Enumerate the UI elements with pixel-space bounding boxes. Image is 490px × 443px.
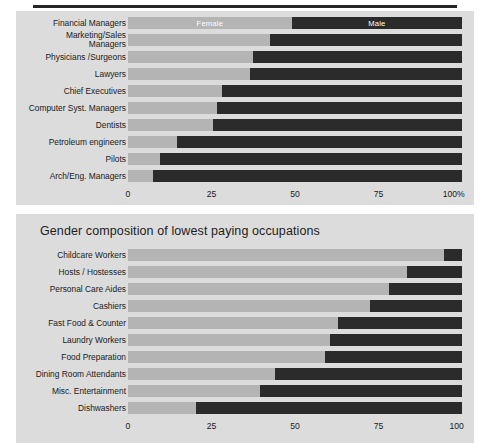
- bar-segment-female: [128, 51, 462, 63]
- x-axis-tick-label: 75: [374, 421, 384, 431]
- x-axis-tick-label: 25: [207, 189, 217, 199]
- bar-segment-male: [325, 351, 462, 363]
- bar-segment-female: [128, 317, 462, 329]
- bar-row: Dining Room Attendants: [16, 366, 474, 382]
- bar-row-label: Dining Room Attendants: [16, 366, 126, 382]
- bar-segment-male: [217, 102, 462, 114]
- bar-segment-male: [253, 51, 462, 63]
- bar-row-label: Personal Care Aides: [16, 281, 126, 297]
- bar-segment-male: [275, 368, 462, 380]
- bar-segment-female: [128, 85, 462, 97]
- bar-row-label: Physicians /Surgeons: [16, 49, 126, 65]
- bar-row: Computer Syst. Managers: [16, 100, 474, 116]
- bar-row-label: Marketing/SalesManagers: [16, 31, 126, 48]
- bar-row: Pilots: [16, 151, 474, 167]
- bar-segment-male: [250, 68, 462, 80]
- bar-row: Marketing/SalesManagers: [16, 32, 474, 48]
- bar-row: Laundry Workers: [16, 332, 474, 348]
- bar-row-label: Dentists: [16, 117, 126, 133]
- bar-segment-male: [177, 136, 462, 148]
- bar-segment-female: [128, 385, 462, 397]
- bar-row: Personal Care Aides: [16, 281, 474, 297]
- bar-row: Lawyers: [16, 66, 474, 82]
- x-axis: 0255075100%: [16, 187, 474, 205]
- bar-segment-female: [128, 402, 462, 414]
- bar-segment-male: [153, 170, 462, 182]
- x-axis-tick-label: 50: [290, 421, 300, 431]
- bar-row: Misc. Entertainment: [16, 383, 474, 399]
- bar-segment-male: [222, 85, 462, 97]
- stacked-bar-chart-bottom: Childcare WorkersHosts / HostessesPerson…: [16, 247, 474, 437]
- bar-segment-female: [128, 34, 462, 46]
- bar-segment-male: [330, 334, 462, 346]
- bar-segment-female: [128, 266, 462, 278]
- x-axis-tick-label: 100%: [443, 189, 465, 199]
- bar-row: Food Preparation: [16, 349, 474, 365]
- bar-segment-female: [128, 283, 462, 295]
- bar-row-label: Childcare Workers: [16, 247, 126, 263]
- bar-row-label: Arch/Eng. Managers: [16, 168, 126, 184]
- bar-segment-male: [407, 266, 462, 278]
- bar-row-label: Laundry Workers: [16, 332, 126, 348]
- bar-row-label: Chief Executives: [16, 83, 126, 99]
- bar-row: Financial ManagersFemaleMale: [16, 15, 474, 31]
- bar-row: Physicians /Surgeons: [16, 49, 474, 65]
- bar-row: Cashiers: [16, 298, 474, 314]
- bar-row-label: Lawyers: [16, 66, 126, 82]
- bar-segment-male: [270, 34, 462, 46]
- chart-panel-highest-paying: Financial ManagersFemaleMaleMarketing/Sa…: [16, 11, 474, 205]
- bar-segment-male: [338, 317, 462, 329]
- bar-row-label: Financial Managers: [16, 15, 126, 31]
- bar-row: Fast Food & Counter: [16, 315, 474, 331]
- chart-panel-lowest-paying: Gender composition of lowest paying occu…: [16, 214, 474, 443]
- bar-row: Childcare Workers: [16, 247, 474, 263]
- bar-row: Hosts / Hostesses: [16, 264, 474, 280]
- bar-row-label: Fast Food & Counter: [16, 315, 126, 331]
- bar-row-label: Food Preparation: [16, 349, 126, 365]
- bar-segment-male: [370, 300, 462, 312]
- bar-row: Chief Executives: [16, 83, 474, 99]
- bar-segment-female: [128, 351, 462, 363]
- bar-row-label: Hosts / Hostesses: [16, 264, 126, 280]
- bar-segment-female: [128, 170, 462, 182]
- x-axis-tick-label: 0: [126, 421, 131, 431]
- bar-segment-female: [128, 119, 462, 131]
- bar-row-label: Cashiers: [16, 298, 126, 314]
- x-axis-tick-label: 75: [374, 189, 384, 199]
- legend-label-female: Female: [128, 17, 292, 29]
- x-axis-ticks: 0255075100: [128, 419, 462, 437]
- x-axis-tick-label: 0: [126, 189, 131, 199]
- x-axis-tick-label: 50: [290, 189, 300, 199]
- bar-segment-female: [128, 249, 462, 261]
- bar-row-label: Petroleum engineers: [16, 134, 126, 150]
- bar-row-label: Computer Syst. Managers: [16, 100, 126, 116]
- x-axis-tick-label: 25: [207, 421, 217, 431]
- bar-segment-female: FemaleMale: [128, 17, 462, 29]
- bar-row: Dishwashers: [16, 400, 474, 416]
- bar-row: Arch/Eng. Managers: [16, 168, 474, 184]
- bar-row-label: Dishwashers: [16, 400, 126, 416]
- bar-segment-female: [128, 153, 462, 165]
- bar-row: Dentists: [16, 117, 474, 133]
- bar-segment-female: [128, 334, 462, 346]
- legend-label-male: Male: [292, 17, 462, 29]
- bar-segment-male: [389, 283, 462, 295]
- bar-segment-female: [128, 68, 462, 80]
- bar-segment-male: [196, 402, 462, 414]
- x-axis-ticks: 0255075100%: [128, 187, 462, 205]
- bar-segment-male: [260, 385, 462, 397]
- bar-row: Petroleum engineers: [16, 134, 474, 150]
- page-title-lowest-paying: Gender composition of lowest paying occu…: [40, 224, 320, 238]
- bar-segment-male: [444, 249, 462, 261]
- x-axis-tick-label: 100: [449, 421, 463, 431]
- bar-segment-female: [128, 368, 462, 380]
- bar-segment-female: [128, 102, 462, 114]
- header-rule: [33, 5, 457, 8]
- bar-segment-female: [128, 300, 462, 312]
- x-axis: 0255075100: [16, 419, 474, 437]
- bar-segment-male: [160, 153, 462, 165]
- bar-segment-male: [213, 119, 462, 131]
- bar-segment-female: [128, 136, 462, 148]
- bar-row-label: Pilots: [16, 151, 126, 167]
- bar-row-label: Misc. Entertainment: [16, 383, 126, 399]
